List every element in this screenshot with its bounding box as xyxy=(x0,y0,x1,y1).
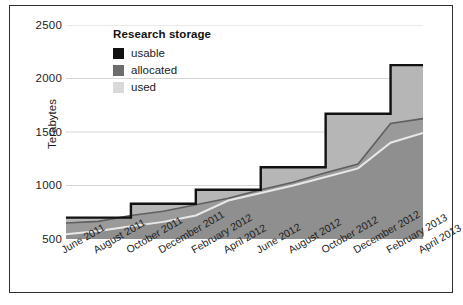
legend-items: usableallocatedused xyxy=(113,47,243,93)
legend-swatch-allocated xyxy=(113,65,124,76)
legend-item: allocated xyxy=(113,64,243,76)
legend-title: Research storage xyxy=(113,28,243,40)
legend-item: used xyxy=(113,81,243,93)
legend-item: usable xyxy=(113,47,243,59)
legend-item-label: usable xyxy=(131,47,165,59)
legend-item-label: used xyxy=(131,81,156,93)
legend-swatch-usable xyxy=(113,48,124,59)
legend: Research storage usableallocatedused xyxy=(113,28,243,98)
legend-item-label: allocated xyxy=(131,64,177,76)
chart-screenshot: 2500 2000 1500 1000 500 Terabytes June 2… xyxy=(0,0,463,305)
legend-swatch-used xyxy=(113,82,124,93)
